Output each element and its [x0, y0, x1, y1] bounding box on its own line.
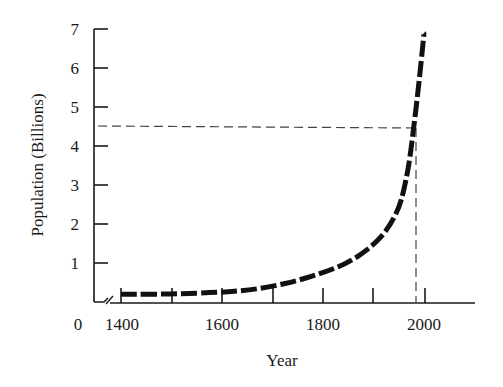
x-tick-label-2000: 2000 — [407, 315, 441, 334]
x-tick-label-1800: 1800 — [306, 315, 340, 334]
reference-line-horizontal — [98, 126, 415, 128]
y-tick-label-4: 4 — [71, 137, 80, 156]
y-axis-title: Population (Billions) — [28, 93, 47, 236]
y-tick-label-5: 5 — [71, 98, 80, 117]
population-curve — [121, 33, 424, 294]
x-axis-break-left — [94, 298, 108, 302]
population-chart: 7 6 5 4 3 2 1 0 1400 1600 1800 2000 Year… — [0, 0, 503, 387]
y-tick-label-6: 6 — [71, 59, 80, 78]
x-tick-label-1400: 1400 — [105, 315, 139, 334]
y-tick-label-1: 1 — [71, 254, 80, 273]
x-axis-title: Year — [266, 351, 298, 370]
y-tick-label-3: 3 — [71, 176, 80, 195]
y-tick-label-2: 2 — [71, 215, 80, 234]
x-tick-label-0: 0 — [74, 315, 83, 334]
x-tick-label-1600: 1600 — [205, 315, 239, 334]
y-tick-label-7: 7 — [71, 20, 80, 39]
